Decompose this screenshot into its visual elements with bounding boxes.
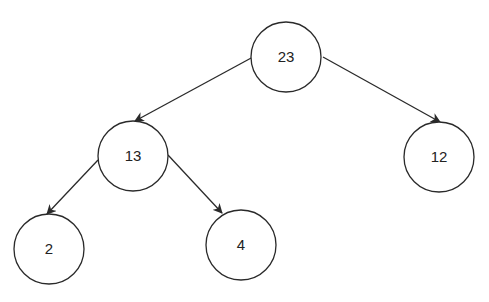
tree-svg: 23 13 12 2 4 [0, 0, 489, 302]
edge-23-to-13 [135, 57, 253, 121]
node-12: 12 [404, 122, 474, 192]
node-label: 23 [278, 48, 295, 65]
node-label: 13 [125, 147, 142, 164]
node-label: 2 [45, 240, 53, 257]
edge-23-to-12 [323, 57, 440, 122]
node-label: 4 [237, 236, 245, 253]
node-23: 23 [251, 22, 321, 92]
node-2: 2 [14, 214, 84, 284]
node-4: 4 [206, 210, 276, 280]
tree-diagram: 23 13 12 2 4 [0, 0, 489, 302]
node-13: 13 [98, 121, 168, 191]
edge-13-to-4 [168, 155, 222, 213]
node-label: 12 [431, 148, 448, 165]
edge-13-to-2 [47, 160, 98, 214]
